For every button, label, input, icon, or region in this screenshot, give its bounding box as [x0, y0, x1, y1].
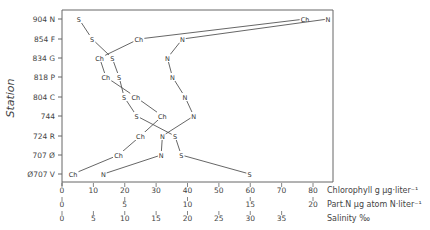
station-label: 724 R	[33, 132, 55, 141]
data-point-marker: S	[90, 36, 94, 44]
data-point-marker: S	[122, 94, 126, 102]
data-point-marker: N	[101, 171, 106, 179]
x-tick-label: 50	[214, 186, 224, 195]
data-point-marker: Ch	[95, 55, 104, 63]
x-tick-label: 15	[151, 214, 161, 223]
data-point-marker: S	[248, 171, 252, 179]
x-tick-label: 0	[60, 200, 65, 209]
data-point-marker: Ch	[135, 36, 144, 44]
chart: 904 N854 F834 G818 P804 C744724 R707 ØØ7…	[0, 0, 430, 230]
x-tick-label: 60	[245, 186, 255, 195]
x-tick-label: 10	[120, 214, 130, 223]
x-tick-label: 25	[214, 214, 224, 223]
data-point-marker: Ch	[158, 113, 167, 121]
x-tick-label: 10	[183, 200, 193, 209]
x-tick-label: 15	[245, 200, 255, 209]
data-point-marker: S	[117, 74, 121, 82]
x-tick-label: 20	[308, 200, 318, 209]
x-tick-label: 0	[60, 186, 65, 195]
data-point-marker: Ch	[102, 74, 111, 82]
x-tick-label: 30	[151, 186, 161, 195]
x-tick-label: 30	[245, 214, 255, 223]
data-point-marker: Ch	[136, 133, 145, 141]
data-point-marker: N	[160, 133, 165, 141]
x-axis-title: Part.N µg atom N·liter⁻¹	[327, 200, 422, 209]
plot-frame	[62, 10, 333, 182]
x-tick-label: 20	[183, 214, 193, 223]
data-point-marker: Ch	[114, 152, 123, 160]
station-label: 804 C	[33, 93, 55, 102]
data-point-marker: N	[191, 113, 196, 121]
data-point-marker: Ch	[69, 171, 78, 179]
x-tick-label: 80	[308, 186, 318, 195]
data-point-marker: N	[180, 36, 185, 44]
station-label: 904 N	[33, 15, 55, 24]
x-tick-label: 10	[89, 186, 99, 195]
x-tick-label: 70	[277, 186, 287, 195]
x-tick-label: 35	[277, 214, 287, 223]
x-axis-title: Chlorophyll g µg·liter⁻¹	[327, 186, 418, 195]
data-point-marker: S	[179, 152, 183, 160]
data-point-marker: N	[183, 94, 188, 102]
x-tick-label: 0	[60, 214, 65, 223]
x-tick-label: 40	[183, 186, 193, 195]
x-axis-title: Salinity ‰	[327, 214, 370, 223]
station-label: 707 Ø	[32, 151, 55, 160]
data-point-marker: N	[165, 55, 170, 63]
series-line-salinity	[79, 19, 250, 174]
station-label: 744	[41, 112, 56, 121]
station-label: Ø707 V	[27, 170, 56, 179]
station-label: 818 P	[34, 73, 56, 82]
x-tick-label: 5	[91, 214, 96, 223]
series-line-chlorophyll	[73, 19, 305, 174]
data-point-marker: N	[159, 152, 164, 160]
x-tick-label: 20	[120, 186, 130, 195]
data-point-marker: S	[110, 55, 114, 63]
x-tick-label: 5	[122, 200, 127, 209]
data-point-marker: S	[173, 133, 177, 141]
station-label: 854 F	[34, 35, 55, 44]
data-point-marker: S	[135, 113, 139, 121]
data-point-marker: S	[77, 16, 81, 24]
station-label: 834 G	[32, 54, 55, 63]
y-axis-title: Station	[4, 78, 17, 117]
data-point-marker: N	[170, 74, 175, 82]
data-point-marker: N	[326, 16, 331, 24]
data-point-marker: Ch	[131, 94, 140, 102]
